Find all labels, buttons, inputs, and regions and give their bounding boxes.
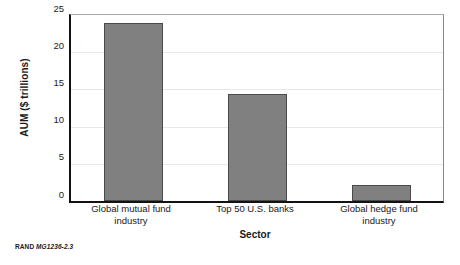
x-tick-label-global-mutual-fund-industry: Global mutual fund industry [69, 203, 193, 226]
x-tick-label-line-2: industry [71, 215, 191, 227]
x-tick-label-global-hedge-fund-industry: Global hedge fund industry [317, 203, 441, 226]
bar-top-50-us-banks [228, 94, 287, 201]
bar-slot-global-mutual-fund-industry [71, 15, 195, 201]
x-tick-label-line-1: Global mutual fund [71, 203, 191, 215]
x-tick-label-line-1: Global hedge fund [319, 203, 439, 215]
y-tick-label-10: 10 [32, 114, 64, 125]
bar-slot-global-hedge-fund-industry [319, 15, 443, 201]
plot-area [69, 14, 444, 203]
y-axis-title: AUM ($ trillions) [19, 18, 30, 178]
footnote-brand: RAND [15, 243, 34, 250]
y-tick-label-5: 5 [32, 151, 64, 162]
figure-source-note: RAND MG1236-2.3 [15, 243, 73, 250]
bar-slot-top-50-us-banks [195, 15, 319, 201]
x-tick-label-line-1: Top 50 U.S. banks [195, 203, 315, 215]
x-tick-label-line-2: industry [319, 215, 439, 227]
x-axis-title: Sector [69, 229, 441, 240]
bar-global-hedge-fund-industry [352, 185, 411, 201]
y-tick-label-20: 20 [32, 40, 64, 51]
bar-global-mutual-fund-industry [104, 23, 163, 201]
x-axis-tick-labels: Global mutual fund industry Top 50 U.S. … [69, 203, 441, 226]
footnote-figure-id: MG1236-2.3 [36, 243, 73, 250]
y-tick-label-15: 15 [32, 77, 64, 88]
x-tick-label-top-50-us-banks: Top 50 U.S. banks [193, 203, 317, 226]
y-tick-label-0: 0 [32, 189, 64, 200]
y-tick-label-25: 25 [32, 3, 64, 14]
bar-chart-figure: AUM ($ trillions) 0 5 10 15 20 25 [0, 0, 460, 265]
y-axis-tick-labels: 0 5 10 15 20 25 [32, 8, 64, 208]
bars-layer [71, 15, 443, 201]
